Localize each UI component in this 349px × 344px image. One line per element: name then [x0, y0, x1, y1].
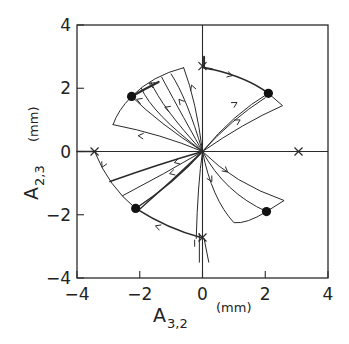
direction-arrow-icon	[231, 102, 237, 107]
trajectory-ll	[196, 152, 202, 239]
trajectory-lr	[203, 152, 267, 223]
stable-point-dot-icon	[264, 89, 273, 98]
y-tick-label: 0	[60, 142, 71, 162]
trajectory-ul	[171, 74, 202, 151]
x-axis-unit: (mm)	[216, 300, 251, 315]
trajectory-ll	[136, 152, 203, 209]
direction-arrow-icon	[191, 85, 196, 91]
y-tick-label: −4	[46, 268, 71, 288]
trajectories	[77, 57, 284, 263]
y-tick-label: −2	[46, 205, 71, 225]
trajectory-lr	[203, 152, 285, 212]
x-tick-label: 2	[260, 284, 271, 304]
y-tick-label: 4	[60, 15, 71, 35]
x-tick-label: −2	[127, 284, 152, 304]
x-tick-label: 4	[323, 284, 334, 304]
x-axis-title: A3,2	[153, 304, 188, 331]
direction-arrow-icon	[234, 120, 240, 125]
direction-arrow-icon	[138, 133, 143, 139]
chart-canvas: −4−2024420−2−4 A3,2 (mm) A2,3 (mm)	[0, 0, 349, 344]
separatrix-ur	[212, 69, 268, 93]
stable-point-dot-icon	[262, 207, 271, 216]
trajectory-ul	[113, 125, 202, 152]
direction-arrow-icon	[179, 99, 185, 105]
trajectory-ur	[203, 93, 283, 151]
phase-plane-chart: −4−2024420−2−4 A3,2 (mm) A2,3 (mm)	[0, 0, 349, 344]
y-axis-title: A2,3	[20, 165, 47, 200]
direction-arrow-icon	[137, 98, 143, 103]
stable-point-dot-icon	[127, 92, 136, 101]
y-tick-label: 2	[60, 78, 71, 98]
y-axis-title-group: A2,3 (mm)	[20, 107, 47, 200]
stable-point-dot-icon	[131, 204, 140, 213]
x-tick-label: 0	[197, 284, 208, 304]
separatrix-ll-lower	[136, 208, 201, 237]
direction-arrow-icon	[102, 161, 107, 167]
direction-arrow-icon	[155, 225, 161, 230]
direction-arrow-icon	[165, 106, 171, 111]
y-axis-unit: (mm)	[26, 107, 41, 142]
trajectory-ur	[203, 98, 266, 152]
